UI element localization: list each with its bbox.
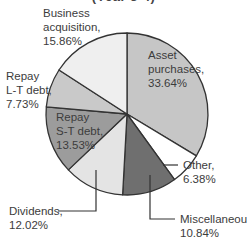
label-value: 13.53% bbox=[56, 138, 103, 152]
label-value: 10.84% bbox=[180, 226, 247, 240]
label-repay-st-debt: Repay S-T debt, 13.53% bbox=[56, 110, 103, 152]
label-text: Repay bbox=[56, 110, 103, 124]
label-text: S-T debt, bbox=[56, 124, 103, 138]
label-text: Miscellaneous, bbox=[180, 212, 247, 226]
label-text: Repay bbox=[6, 69, 52, 83]
label-value: 7.73% bbox=[6, 97, 52, 111]
label-value: 12.02% bbox=[9, 218, 63, 232]
label-asset-purchases: Asset purchases, 33.64% bbox=[148, 48, 204, 90]
label-text: purchases, bbox=[148, 62, 204, 76]
label-text: Dividends, bbox=[9, 204, 63, 218]
label-text: Business bbox=[43, 6, 101, 20]
label-text: Asset bbox=[148, 48, 204, 62]
label-business-acquisition: Business acquisition, 15.86% bbox=[43, 6, 101, 48]
label-repay-lt-debt: Repay L-T debt, 7.73% bbox=[6, 69, 52, 111]
label-text: L-T debt, bbox=[6, 83, 52, 97]
label-miscellaneous: Miscellaneous, 10.84% bbox=[180, 212, 247, 240]
label-text: acquisition, bbox=[43, 20, 101, 34]
label-value: 33.64% bbox=[148, 76, 204, 90]
label-value: 6.38% bbox=[183, 172, 216, 186]
label-other: Other, 6.38% bbox=[183, 158, 216, 186]
label-text: Other, bbox=[183, 158, 216, 172]
label-value: 15.86% bbox=[43, 34, 101, 48]
label-dividends: Dividends, 12.02% bbox=[9, 204, 63, 232]
